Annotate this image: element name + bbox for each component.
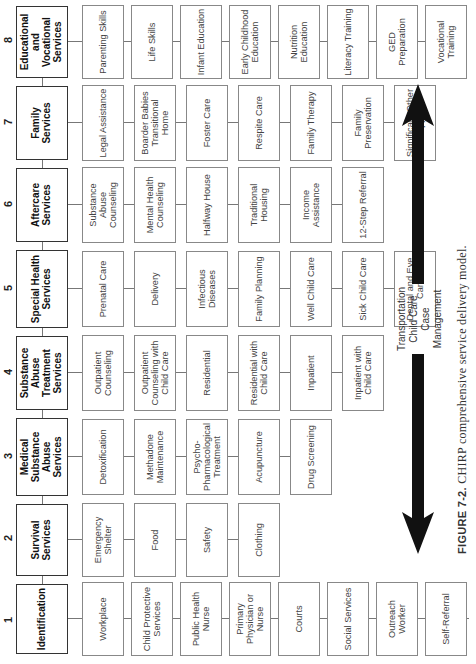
item-safety: Safety [186,503,228,577]
item-infectious-diseases: Infectious Diseases [186,251,228,327]
service-delivery-diagram: 1 Identification Workplace Child Protect… [0,0,476,664]
item-outreach-worker: Outreach Worker [376,582,418,656]
item-early-childhood-education: Early Childhood Education [229,5,271,79]
item-self-referral: Self-Referral [425,582,467,656]
item-detoxification: Detoxification [82,419,124,495]
item-drug-screening: Drug Screening [290,419,332,495]
column-head-family-services: Family Services [16,86,68,160]
item-residential-child-care: Residential with Child Care [238,335,280,411]
legend-transportation: Transportation [396,279,408,359]
column-number-2: 2 [2,498,14,578]
item-income-assistance: Income Assistance [290,167,332,243]
item-traditional-housing: Traditional Housing [238,167,280,243]
column-number-1: 1 [2,580,14,660]
column-number-5: 5 [2,248,14,328]
item-family-planning: Family Planning [238,251,280,327]
connector [42,78,43,86]
item-family-preservation: Family Preservation [342,85,384,161]
item-halfway-house: Halfway House [186,167,228,243]
item-food: Food [134,503,176,577]
item-outpatient-counseling: Outpatient Counseling [82,335,124,411]
column-head-identification: Identification [16,584,68,654]
caption-text: CHIRP comprehensive service delivery mod… [455,245,469,484]
connector [42,328,43,336]
item-inpatient: Inpatient [290,335,332,411]
item-emergency-shelter: Emergency Shelter [82,503,124,577]
column-number-4: 4 [2,332,14,412]
connector [42,496,43,504]
item-methadone-maintenance: Methadone Maintenance [134,419,176,495]
item-psychopharmacological-treatment: Psycho-Pharmacological Treatment [186,419,228,495]
item-delivery: Delivery [134,251,176,327]
item-outpatient-counseling-child-care: Outpatient Counseling with Child Care [134,335,176,411]
item-public-health-nurse: Public Health Nurse [180,582,222,656]
item-prenatal-care: Prenatal Care [82,251,124,327]
item-well-child-care: Well Child Care [290,251,332,327]
item-child-protective-services: Child Protective Services [131,582,173,656]
item-12-step-referral: 12-Step Referral [342,167,384,243]
connector [42,160,43,168]
column-number-3: 3 [2,416,14,496]
item-social-services: Social Services [327,582,369,656]
item-foster-care: Foster Care [186,85,228,161]
item-mental-health-counseling: Mental Health Counseling [134,167,176,243]
caption-label: FIGURE 7-2. [456,487,468,554]
item-courts: Courts [278,582,320,656]
column-head-medical-substance-abuse: Medical Substance Abuse Services [16,418,68,496]
item-clothing: Clothing [238,503,280,577]
column-number-8: 8 [2,0,14,80]
item-life-skills: Life Skills [131,5,173,79]
connector [42,410,43,418]
column-head-survival-services: Survival Services [16,504,68,576]
column-head-educational-vocational: Educational and Vocational Services [16,6,68,78]
item-primary-physician: Primary Physician or Nurse [229,582,271,656]
legend-case-management: Case Management [420,279,444,359]
item-literacy-training: Literacy Training [327,5,369,79]
item-inpatient-child-care: Inpatient with Child Care [342,335,384,411]
item-substance-abuse-counseling: Substance Abuse Counseling [82,167,124,243]
item-sick-child-care: Sick Child Care [342,251,384,327]
item-boarder-babies: Boarder Babies Transitional Home [134,85,176,161]
item-workplace: Workplace [82,582,124,656]
column-number-7: 7 [2,82,14,162]
item-acupuncture: Acupuncture [238,419,280,495]
item-residential: Residential [186,335,228,411]
column-head-substance-abuse-treatment: Substance Abuse Treatment Services [16,336,68,410]
legend-child-care: Child Care [408,279,420,359]
connector [42,242,43,250]
column-head-aftercare: Aftercare Services [16,168,68,242]
figure-caption: FIGURE 7-2. CHIRP comprehensive service … [455,0,470,554]
column-head-special-health: Special Health Services [16,250,68,328]
item-ged-preparation: GED Preparation [376,5,418,79]
item-infant-education: Infant Education [180,5,222,79]
item-family-therapy: Family Therapy [290,85,332,161]
item-legal-assistance: Legal Assistance [82,85,124,161]
connector [42,576,43,584]
item-nutrition-education: Nutrition Education [278,5,320,79]
item-parenting-skills: Parenting Skills [82,5,124,79]
column-number-6: 6 [2,164,14,244]
item-respite-care: Respite Care [238,85,280,161]
